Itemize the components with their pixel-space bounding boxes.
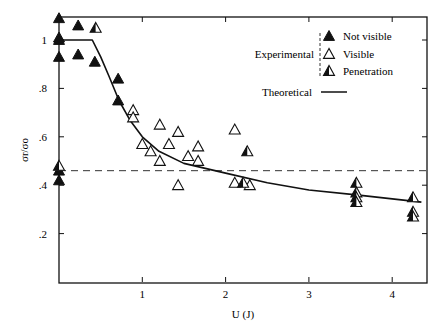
filled-marker xyxy=(54,13,65,23)
legend-line-label: Theoretical xyxy=(262,86,312,98)
half-marker xyxy=(408,192,419,202)
filled-marker xyxy=(73,49,84,59)
legend-entry-label: Visible xyxy=(343,48,374,60)
chart: 1234.2.4.6.81 ExperimentalNot visibleVis… xyxy=(0,0,440,331)
open-marker xyxy=(173,180,184,190)
y-tick-label: .2 xyxy=(39,228,47,240)
half-marker xyxy=(242,146,253,156)
legend-entry-label: Penetration xyxy=(343,65,394,77)
y-tick-label: 1 xyxy=(42,34,48,46)
half-marker xyxy=(351,177,362,187)
open-marker xyxy=(163,139,174,149)
y-tick-label: .6 xyxy=(39,131,48,143)
filled-marker xyxy=(89,56,100,66)
x-tick-label: 2 xyxy=(223,288,229,300)
half-marker xyxy=(54,160,65,170)
open-marker xyxy=(183,151,194,161)
x-tick-label: 3 xyxy=(306,288,312,300)
open-marker xyxy=(154,156,165,166)
open-marker xyxy=(154,119,165,129)
filled-marker xyxy=(113,73,124,83)
y-tick-label: .4 xyxy=(39,179,48,191)
open-marker xyxy=(173,126,184,136)
filled-marker xyxy=(324,31,335,41)
y-tick-label: .8 xyxy=(39,82,48,94)
open-marker xyxy=(324,49,335,59)
data-points xyxy=(54,13,419,221)
x-axis-label: U (J) xyxy=(232,308,255,321)
filled-marker xyxy=(54,175,65,185)
half-marker xyxy=(90,22,101,32)
filled-marker xyxy=(54,32,65,42)
legend-entry-label: Not visible xyxy=(343,30,392,42)
filled-marker xyxy=(54,51,65,61)
open-marker xyxy=(193,156,204,166)
open-marker xyxy=(229,124,240,134)
filled-marker xyxy=(73,20,84,30)
half-marker xyxy=(324,66,335,76)
y-axis-label: σr/σo xyxy=(18,137,30,162)
x-tick-label: 1 xyxy=(140,288,146,300)
filled-marker xyxy=(113,95,124,105)
x-tick-label: 4 xyxy=(389,288,395,300)
legend-group-label: Experimental xyxy=(255,48,314,60)
open-marker xyxy=(193,141,204,151)
legend: ExperimentalNot visibleVisiblePenetratio… xyxy=(255,30,394,98)
